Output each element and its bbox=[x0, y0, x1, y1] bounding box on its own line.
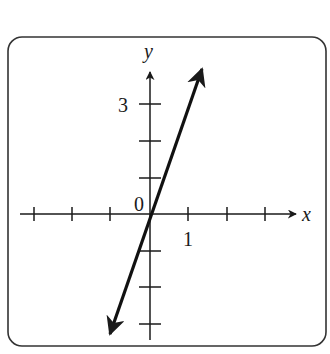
x-tick-label-1: 1 bbox=[183, 228, 193, 250]
x-axis-label: x bbox=[301, 203, 311, 225]
graph-figure: y x 0 1 3 bbox=[0, 0, 330, 354]
y-tick-label-3: 3 bbox=[118, 94, 128, 116]
y-axis-label: y bbox=[142, 40, 153, 63]
graph-frame bbox=[8, 37, 326, 346]
origin-label: 0 bbox=[134, 193, 144, 215]
